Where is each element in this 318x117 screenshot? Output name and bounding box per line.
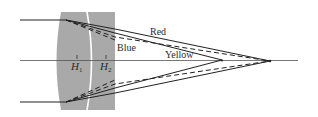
chromatic-aberration-diagram: Red Blue Yellow H1 H2 [0,0,318,117]
label-yellow: Yellow [165,49,194,60]
yellow-focus-point [221,60,223,62]
label-red: Red [150,26,166,37]
red-focus-point [269,60,272,63]
label-blue: Blue [117,42,136,53]
